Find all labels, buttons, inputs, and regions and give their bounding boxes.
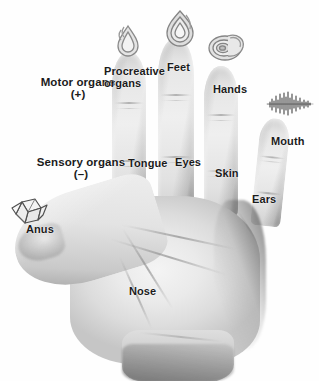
- wrist-shadow: [122, 344, 234, 381]
- hand-photo: [0, 0, 319, 381]
- label-nose: Nose: [129, 286, 156, 298]
- label-hands: Hands: [213, 84, 247, 96]
- sensory-organs-label: Sensory organs (–): [26, 156, 136, 181]
- finger-crease: [206, 114, 236, 116]
- hand-organ-map-figure: Motor organs (+) Sensory organs (–) Proc…: [0, 0, 319, 381]
- flame-drop-icon: [106, 22, 150, 64]
- label-tongue: Tongue: [128, 158, 168, 170]
- motor-organs-sign: (+): [28, 88, 128, 100]
- label-feet: Feet: [167, 62, 190, 74]
- flame-icon: [159, 8, 201, 48]
- finger-crease: [160, 100, 192, 101]
- finger-crease: [206, 120, 236, 121]
- finger-crease: [160, 94, 192, 96]
- label-skin: Skin: [215, 168, 239, 180]
- label-procreative-organs: Procreative organs: [104, 65, 170, 90]
- label-eyes: Eyes: [175, 157, 201, 169]
- spiral-shell-icon: [204, 26, 250, 66]
- finger-crease: [259, 155, 285, 160]
- sensory-organs-sign: (–): [26, 168, 136, 180]
- label-ears: Ears: [252, 194, 276, 206]
- finger-crease: [114, 102, 144, 104]
- palm-outer-edge: [214, 200, 266, 350]
- finger-crease: [259, 160, 285, 164]
- finger-crease: [114, 108, 144, 109]
- sensory-organs-text: Sensory organs: [37, 156, 125, 168]
- label-anus: Anus: [26, 224, 54, 236]
- label-mouth: Mouth: [271, 136, 304, 148]
- sound-wave-icon: [266, 88, 314, 120]
